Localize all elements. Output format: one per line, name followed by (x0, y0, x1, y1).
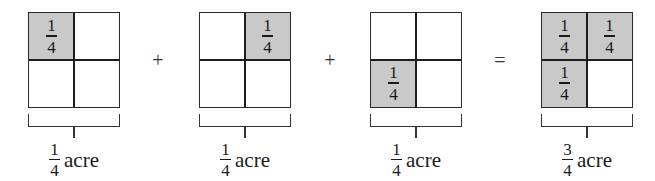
unit-label: acre (64, 150, 99, 171)
denominator: 4 (560, 39, 569, 56)
bracket-tick (73, 126, 75, 138)
divider-horizontal (371, 59, 461, 62)
fraction-bar (391, 159, 402, 160)
cell-bottom-right (245, 60, 290, 107)
grid-panel-2: 1 4 (199, 12, 291, 108)
numerator: 3 (563, 141, 572, 158)
denominator: 4 (560, 86, 569, 103)
fraction-bar (559, 82, 570, 83)
cell-fraction: 1 4 (262, 17, 273, 55)
cell-bottom-right (587, 60, 632, 107)
denominator: 4 (221, 162, 230, 179)
plus-sign: + (148, 48, 168, 72)
cell-top-right (74, 13, 119, 60)
numerator: 1 (605, 17, 614, 34)
divider-horizontal (542, 59, 632, 62)
cell-shaded-top-left: 1 4 (542, 13, 587, 60)
total-label-panel-result: 3 4 acre (527, 141, 647, 179)
unit-label: acre (406, 150, 441, 171)
bracket-panel-3 (370, 114, 462, 127)
total-fraction: 1 4 (220, 141, 231, 179)
total-fraction: 3 4 (562, 141, 573, 179)
grid-panel-3: 1 4 (370, 12, 462, 108)
total-label-panel-2: 1 4 acre (185, 141, 305, 179)
fraction-bar (46, 35, 57, 36)
bracket-panel-1 (28, 114, 120, 127)
cell-top-left (200, 13, 245, 60)
plus-sign: + (320, 48, 340, 72)
grid-panel-result: 1 4 1 4 1 4 (541, 12, 633, 108)
cell-fraction: 1 4 (559, 64, 570, 102)
cell-top-left (371, 13, 416, 60)
numerator: 1 (560, 64, 569, 81)
bracket-tick (244, 126, 246, 138)
total-label-panel-3: 1 4 acre (356, 141, 476, 179)
bracket-panel-2 (199, 114, 291, 127)
unit-label: acre (577, 150, 612, 171)
fraction-bar (604, 35, 615, 36)
cell-fraction: 1 4 (46, 17, 57, 55)
cell-fraction: 1 4 (559, 17, 570, 55)
fraction-bar (220, 159, 231, 160)
grid-panel-1: 1 4 (28, 12, 120, 108)
total-fraction: 1 4 (49, 141, 60, 179)
numerator: 1 (560, 17, 569, 34)
numerator: 1 (392, 141, 401, 158)
bracket-tick (586, 126, 588, 138)
bracket-tick (415, 126, 417, 138)
bracket-panel-result (541, 114, 633, 127)
numerator: 1 (47, 17, 56, 34)
fraction-bar (562, 159, 573, 160)
equals-sign: = (490, 48, 510, 72)
numerator: 1 (221, 141, 230, 158)
total-label-panel-1: 1 4 acre (14, 141, 134, 179)
denominator: 4 (392, 162, 401, 179)
cell-fraction: 1 4 (388, 64, 399, 102)
cell-shaded-top-right: 1 4 (245, 13, 290, 60)
denominator: 4 (605, 39, 614, 56)
divider-horizontal (29, 59, 119, 62)
fraction-bar (262, 35, 273, 36)
denominator: 4 (389, 86, 398, 103)
divider-horizontal (200, 59, 290, 62)
unit-label: acre (235, 150, 270, 171)
fraction-bar (388, 82, 399, 83)
denominator: 4 (47, 39, 56, 56)
total-fraction: 1 4 (391, 141, 402, 179)
denominator: 4 (263, 39, 272, 56)
cell-bottom-left (29, 60, 74, 107)
cell-bottom-left (200, 60, 245, 107)
cell-shaded-top-left: 1 4 (29, 13, 74, 60)
fraction-bar (49, 159, 60, 160)
numerator: 1 (263, 17, 272, 34)
cell-fraction: 1 4 (604, 17, 615, 55)
cell-shaded-bottom-left: 1 4 (542, 60, 587, 107)
numerator: 1 (50, 141, 59, 158)
numerator: 1 (389, 64, 398, 81)
denominator: 4 (50, 162, 59, 179)
cell-bottom-right (74, 60, 119, 107)
cell-shaded-top-right: 1 4 (587, 13, 632, 60)
fraction-bar (559, 35, 570, 36)
cell-shaded-bottom-left: 1 4 (371, 60, 416, 107)
cell-bottom-right (416, 60, 461, 107)
cell-top-right (416, 13, 461, 60)
denominator: 4 (563, 162, 572, 179)
